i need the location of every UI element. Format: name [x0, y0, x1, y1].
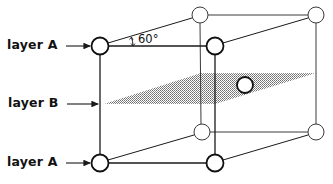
layer-b-plane: [104, 73, 316, 104]
atom-layer-b-center: [237, 77, 253, 93]
edge-bottom-left-diagonal: [108, 135, 194, 160]
edge-top-right-diagonal: [223, 18, 308, 43]
atom-front-bottom-left: [92, 155, 109, 172]
angle-60-label: 60°: [138, 34, 158, 46]
edge-bottom-right-diagonal: [223, 135, 308, 160]
atom-front-bottom-right: [207, 155, 224, 172]
atom-back-bottom-right: [308, 124, 324, 140]
angle-arc-arrow-top: [130, 37, 134, 40]
atom-back-top-left: [192, 7, 208, 23]
atom-back-bottom-left: [194, 124, 210, 140]
atom-front-top-left: [92, 38, 109, 55]
layer-a-bottom-label: layer A: [7, 156, 58, 169]
atom-back-top-right: [308, 7, 324, 23]
layer-a-top-label: layer A: [7, 39, 58, 52]
layer-b-label: layer B: [8, 97, 58, 110]
atom-front-top-right: [207, 38, 224, 55]
edge-back-left-vertical: [200, 23, 201, 124]
